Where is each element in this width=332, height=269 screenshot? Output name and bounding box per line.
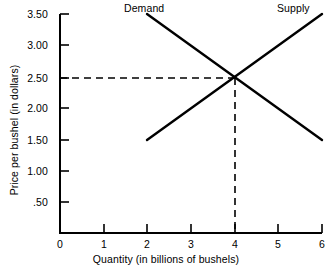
x-axis-ticks [104,224,322,233]
x-tick-label-6: 6 [312,239,332,250]
y-axis-title: Price per bushel (in dollars) [8,50,20,210]
x-tick-label-5: 5 [268,239,288,250]
x-tick-label-1: 1 [94,239,114,250]
supply-demand-chart: 3.50 3.00 2.50 2.00 1.50 1.00 .50 0 1 2 … [0,0,332,269]
x-tick-label-0: 0 [50,239,70,250]
x-tick-label-4: 4 [225,239,245,250]
x-tick-label-2: 2 [137,239,157,250]
chart-canvas [0,0,332,269]
y-axis-ticks [60,14,69,202]
demand-curve-label: Demand [124,2,164,14]
x-axis-title: Quantity (in billions of bushels) [0,253,332,265]
x-tick-label-3: 3 [181,239,201,250]
y-tick-label-3-50: 3.50 [4,9,48,20]
supply-curve-label: Supply [277,2,310,14]
